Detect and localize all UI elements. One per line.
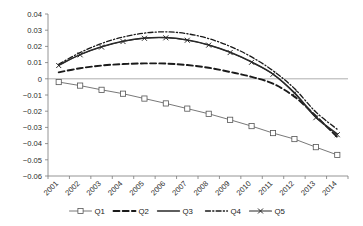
y-tick-label: −0.02 bbox=[23, 107, 42, 116]
data-point-marker bbox=[120, 91, 125, 96]
y-tick-label: −0.05 bbox=[23, 156, 42, 165]
data-point-marker bbox=[142, 96, 147, 101]
y-tick-label: −0.06 bbox=[23, 172, 42, 181]
data-point-marker bbox=[99, 87, 104, 92]
legend-label: Q4 bbox=[231, 207, 242, 216]
legend-label: Q1 bbox=[95, 207, 105, 216]
data-point-marker bbox=[292, 136, 297, 141]
y-tick-label: 0.02 bbox=[27, 42, 42, 51]
y-tick-label: 0 bbox=[38, 75, 42, 84]
data-point-marker bbox=[335, 152, 340, 157]
y-tick-label: 0.01 bbox=[27, 58, 42, 67]
data-point-marker bbox=[270, 130, 275, 135]
y-tick-label: −0.04 bbox=[23, 139, 42, 148]
data-point-marker bbox=[78, 83, 83, 88]
y-tick-label: −0.01 bbox=[23, 91, 42, 100]
data-point-marker bbox=[228, 117, 233, 122]
y-tick-label: 0.04 bbox=[27, 10, 42, 19]
line-chart: 0.040.030.020.010−0.01−0.02−0.03−0.04−0.… bbox=[0, 0, 363, 226]
data-point-marker bbox=[185, 106, 190, 111]
legend-label: Q3 bbox=[183, 207, 193, 216]
y-tick-label: 0.03 bbox=[27, 26, 42, 35]
data-point-marker bbox=[163, 101, 168, 106]
data-point-marker bbox=[206, 111, 211, 116]
legend-label: Q5 bbox=[275, 207, 286, 216]
legend-label: Q2 bbox=[139, 207, 149, 216]
data-point-marker bbox=[313, 145, 318, 150]
data-point-marker bbox=[56, 79, 61, 84]
data-point-marker bbox=[249, 124, 254, 129]
chart-container: 0.040.030.020.010−0.01−0.02−0.03−0.04−0.… bbox=[0, 0, 363, 226]
y-tick-label: −0.03 bbox=[23, 123, 42, 132]
legend-swatch-marker bbox=[78, 208, 83, 213]
